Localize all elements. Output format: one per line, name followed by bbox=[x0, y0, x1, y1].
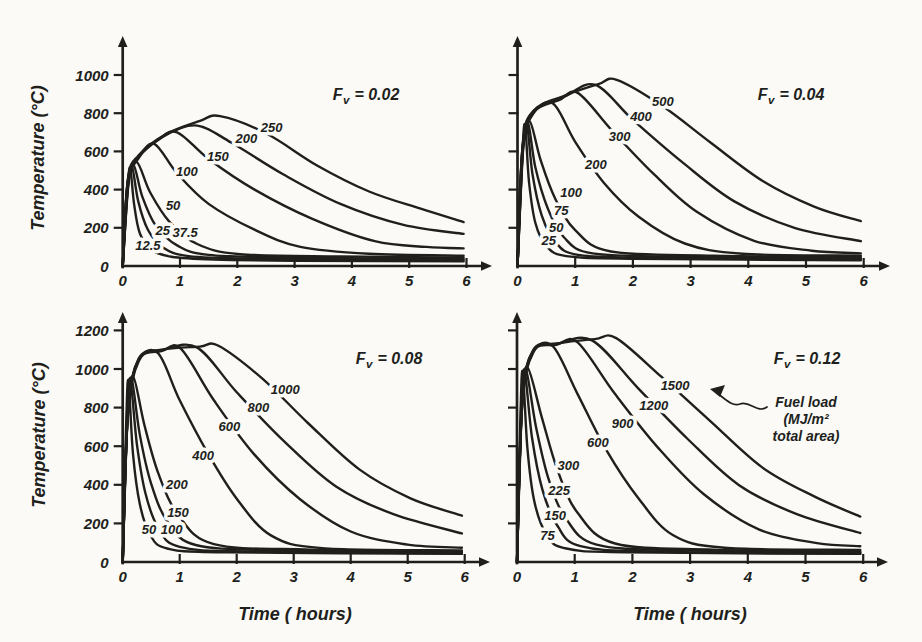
curve-label-25: 25 bbox=[155, 223, 171, 238]
x-tick-label: 4 bbox=[346, 568, 356, 585]
curve-label-200: 200 bbox=[235, 131, 258, 146]
y-axis-arrow-icon bbox=[118, 36, 128, 47]
annotation-arrow bbox=[717, 393, 767, 409]
x-tick-label: 6 bbox=[461, 568, 470, 585]
curve-label-1000: 1000 bbox=[271, 382, 301, 397]
curve-label-75: 75 bbox=[554, 203, 569, 218]
curve-label-900: 900 bbox=[612, 416, 634, 431]
annotation-arrowhead-icon bbox=[710, 385, 725, 397]
x-tick-label: 0 bbox=[513, 272, 522, 289]
curve-12.5 bbox=[123, 167, 464, 266]
curve-label-150: 150 bbox=[207, 149, 229, 164]
y-tick-label: 800 bbox=[84, 399, 110, 416]
y-axis-title: Temperature (°C) bbox=[28, 85, 48, 231]
panel-fv-0.02: 01234560200400600800100012.52537.5501001… bbox=[28, 36, 492, 289]
x-tick-label: 5 bbox=[405, 272, 414, 289]
y-tick-label: 1200 bbox=[75, 322, 109, 339]
x-axis-title: Time ( hours) bbox=[633, 604, 747, 624]
y-tick-label: 400 bbox=[83, 181, 110, 198]
x-tick-label: 6 bbox=[462, 272, 471, 289]
x-tick-label: 0 bbox=[119, 568, 128, 585]
figure: 01234560200400600800100012.52537.5501001… bbox=[0, 0, 922, 642]
x-tick-label: 1 bbox=[571, 272, 579, 289]
fv-label: Fv= 0.02 bbox=[333, 86, 400, 106]
x-tick-label: 2 bbox=[628, 272, 638, 289]
x-axis-arrow-icon bbox=[479, 557, 490, 567]
curve-label-75: 75 bbox=[540, 528, 555, 543]
figure-canvas: 01234560200400600800100012.52537.5501001… bbox=[0, 0, 922, 642]
fv-label: Fv= 0.08 bbox=[356, 350, 423, 370]
curve-label-600: 600 bbox=[218, 419, 240, 434]
y-tick-label: 200 bbox=[83, 219, 110, 236]
curve-label-50: 50 bbox=[166, 198, 181, 213]
y-axis-arrow-icon bbox=[513, 36, 523, 47]
y-tick-label: 600 bbox=[84, 143, 110, 160]
curve-label-400: 400 bbox=[191, 448, 214, 463]
curve-label-300: 300 bbox=[609, 129, 631, 144]
y-tick-label: 200 bbox=[83, 515, 110, 532]
x-tick-label: 2 bbox=[627, 568, 637, 585]
x-tick-label: 6 bbox=[860, 272, 869, 289]
fuel-load-annotation: Fuel load(MJ/m²total area) bbox=[773, 394, 840, 444]
x-tick-label: 1 bbox=[176, 272, 184, 289]
y-axis-arrow-icon bbox=[512, 312, 522, 323]
x-axis-arrow-icon bbox=[877, 557, 888, 567]
curve-label-50: 50 bbox=[549, 220, 564, 235]
curve-label-1500: 1500 bbox=[661, 378, 691, 393]
x-tick-label: 0 bbox=[513, 568, 522, 585]
curve-label-800: 800 bbox=[248, 400, 270, 415]
y-tick-label: 1000 bbox=[75, 67, 109, 84]
x-tick-label: 5 bbox=[404, 568, 413, 585]
curve-label-37.5: 37.5 bbox=[173, 225, 199, 240]
curve-label-150: 150 bbox=[544, 508, 566, 523]
curve-label-200: 200 bbox=[584, 157, 607, 172]
curve-label-400: 400 bbox=[629, 109, 652, 124]
x-tick-label: 5 bbox=[802, 272, 811, 289]
curve-400 bbox=[518, 84, 861, 266]
x-tick-label: 4 bbox=[743, 568, 753, 585]
curve-label-600: 600 bbox=[587, 435, 609, 450]
curve-label-100: 100 bbox=[161, 522, 183, 537]
curve-1500 bbox=[517, 335, 860, 562]
x-tick-label: 3 bbox=[290, 568, 299, 585]
y-tick-label: 400 bbox=[83, 476, 110, 493]
x-tick-label: 5 bbox=[801, 568, 810, 585]
curve-label-100: 100 bbox=[176, 164, 198, 179]
x-axis-arrow-icon bbox=[879, 261, 890, 271]
y-tick-label: 0 bbox=[100, 258, 109, 275]
panel-fv-0.12: 01234567515022530060090012001500Fv= 0.12… bbox=[508, 312, 888, 624]
curve-label-250: 250 bbox=[260, 120, 283, 135]
curve-label-200: 200 bbox=[165, 477, 188, 492]
curve-label-12.5: 12.5 bbox=[135, 238, 161, 253]
y-tick-label: 0 bbox=[100, 554, 109, 571]
curve-500 bbox=[518, 79, 861, 266]
x-tick-label: 6 bbox=[859, 568, 868, 585]
x-tick-label: 0 bbox=[119, 272, 128, 289]
x-tick-label: 3 bbox=[686, 568, 695, 585]
x-tick-label: 3 bbox=[686, 272, 695, 289]
curve-300 bbox=[518, 92, 861, 266]
curve-label-1200: 1200 bbox=[639, 398, 669, 413]
x-axis-arrow-icon bbox=[481, 261, 492, 271]
y-tick-label: 600 bbox=[84, 438, 110, 455]
fv-label: Fv= 0.04 bbox=[758, 86, 825, 106]
fv-label: Fv= 0.12 bbox=[774, 350, 841, 370]
curve-label-150: 150 bbox=[167, 505, 189, 520]
panel-fv-0.04: 0123456255075100200300400500Fv= 0.04 bbox=[509, 36, 891, 289]
x-tick-label: 2 bbox=[232, 568, 242, 585]
curve-50 bbox=[123, 162, 464, 266]
curve-label-300: 300 bbox=[558, 458, 580, 473]
y-axis-arrow-icon bbox=[118, 312, 128, 323]
y-axis-title: Temperature (°C) bbox=[29, 362, 49, 508]
curve-600 bbox=[517, 343, 860, 562]
x-tick-label: 1 bbox=[176, 568, 184, 585]
curve-1200 bbox=[517, 338, 860, 562]
curve-label-500: 500 bbox=[652, 94, 674, 109]
x-axis-title: Time ( hours) bbox=[238, 604, 352, 624]
x-tick-label: 3 bbox=[290, 272, 299, 289]
panel-fv-0.08: 0123456020040060080010001200501001502004… bbox=[29, 312, 490, 624]
y-tick-label: 800 bbox=[84, 105, 110, 122]
curve-label-50: 50 bbox=[142, 522, 157, 537]
x-tick-label: 4 bbox=[347, 272, 357, 289]
x-tick-label: 1 bbox=[571, 568, 579, 585]
